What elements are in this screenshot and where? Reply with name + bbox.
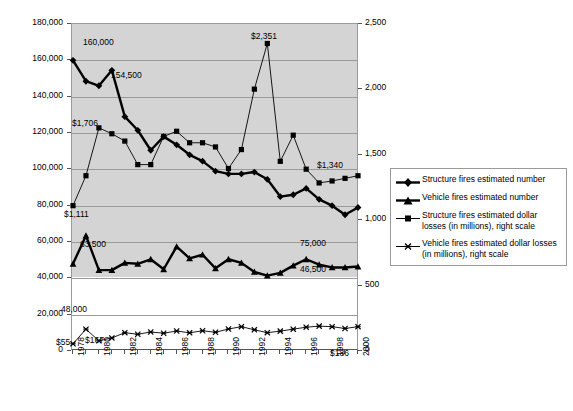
- series-square: [70, 41, 360, 208]
- x-axis-tickmark: [124, 350, 125, 354]
- right-axis-tick-label: 1,500: [365, 149, 405, 158]
- left-axis-tickmark: [67, 59, 71, 60]
- right-axis-tickmark: [358, 154, 362, 155]
- cross-thin-icon: [396, 238, 420, 249]
- x-axis-tickmark: [227, 350, 228, 354]
- x-axis-tickmark: [163, 350, 164, 354]
- x-axis-tickmark: [357, 350, 358, 354]
- legend-label: Structure fires estimated dollar losses …: [422, 210, 561, 231]
- left-axis-tick-label: 80,000: [3, 200, 63, 209]
- triangle-thick-icon: [396, 192, 420, 203]
- left-axis-tickmark: [67, 241, 71, 242]
- data-label-sloss-start: $1,111: [64, 209, 89, 219]
- x-axis-tickmark: [279, 350, 280, 354]
- data-label-sloss-end: $1,340: [317, 160, 343, 170]
- x-axis-tickmark: [215, 350, 216, 354]
- x-axis-tickmark: [150, 350, 151, 354]
- left-axis-tickmark: [67, 277, 71, 278]
- data-label-sloss-peak: $2,351: [251, 31, 277, 41]
- right-axis-tickmark: [358, 219, 362, 220]
- right-axis-tickmark: [358, 285, 362, 286]
- chart-root: 180,000160,000140,000120,000100,00080,00…: [0, 0, 573, 411]
- right-axis-tick-label: 0: [365, 345, 405, 354]
- x-axis-tickmark: [98, 350, 99, 354]
- data-label-structure-end: 75,000: [300, 238, 326, 248]
- legend-item-structure-losses: Structure fires estimated dollar losses …: [396, 210, 561, 231]
- x-axis-tickmark: [292, 350, 293, 354]
- left-axis-tick-label: 140,000: [3, 91, 63, 100]
- left-axis-tickmark: [67, 350, 71, 351]
- left-axis-tick-label: 60,000: [3, 236, 63, 245]
- left-axis-tick-label: 100,000: [3, 163, 63, 172]
- x-axis-tickmark: [137, 350, 138, 354]
- left-axis-tickmark: [67, 96, 71, 97]
- data-label-vloss-1979: $167: [85, 335, 104, 345]
- x-axis-tickmark: [266, 350, 267, 354]
- x-axis-tickmark: [202, 350, 203, 354]
- legend-item-structure-number: Structure fires estimated number: [396, 174, 561, 185]
- x-axis-tickmark: [253, 350, 254, 354]
- data-label-sloss-1980: $1,706: [72, 118, 98, 128]
- x-axis-tickmark: [189, 350, 190, 354]
- legend-item-vehicle-number: Vehicle fires estimated number: [396, 192, 561, 203]
- data-label-vehicle-peak: 63,500: [80, 239, 106, 249]
- data-label-structure-1981: 154,500: [111, 70, 142, 80]
- x-axis-tickmark: [240, 350, 241, 354]
- right-axis-tick-label: 500: [365, 280, 405, 289]
- data-label-vehicle-start: 48,000: [61, 304, 87, 314]
- left-axis-tickmark: [67, 23, 71, 24]
- data-label-vloss-end: $186: [330, 348, 349, 358]
- legend-label: Vehicle fires estimated dollar losses (i…: [422, 238, 561, 259]
- left-axis-tickmark: [67, 205, 71, 206]
- series-diamond: [70, 57, 362, 218]
- x-axis-tickmark: [85, 350, 86, 354]
- left-axis-tick-label: 180,000: [3, 18, 63, 27]
- data-label-vloss-start: $55: [56, 337, 70, 347]
- left-axis-tick-label: 40,000: [3, 272, 63, 281]
- diamond-thick-icon: [396, 174, 420, 185]
- left-axis-tick-label: 20,000: [3, 309, 63, 318]
- left-axis-tick-label: 0: [3, 345, 63, 354]
- x-axis-tickmark: [111, 350, 112, 354]
- data-label-structure-start: 160,000: [83, 37, 114, 47]
- x-axis-tickmark: [318, 350, 319, 354]
- x-axis-tickmark: [72, 350, 73, 354]
- right-axis-tickmark: [358, 23, 362, 24]
- left-axis-tickmark: [67, 132, 71, 133]
- left-axis-tickmark: [67, 168, 71, 169]
- right-axis-tick-label: 2,000: [365, 83, 405, 92]
- right-axis-tick-label: 2,500: [365, 18, 405, 27]
- x-axis-tick-label: 2000: [361, 337, 371, 356]
- legend-item-vehicle-losses: Vehicle fires estimated dollar losses (i…: [396, 238, 561, 259]
- left-axis-tick-label: 120,000: [3, 127, 63, 136]
- square-thin-icon: [396, 210, 420, 221]
- x-axis-tickmark: [176, 350, 177, 354]
- chart-legend: Structure fires estimated number Vehicle…: [390, 168, 567, 266]
- x-axis-tickmark: [305, 350, 306, 354]
- data-label-vehicle-end: 46,500: [300, 264, 326, 274]
- left-axis-tick-label: 160,000: [3, 54, 63, 63]
- right-axis-tickmark: [358, 88, 362, 89]
- legend-label: Structure fires estimated number: [422, 174, 545, 185]
- legend-label: Vehicle fires estimated number: [422, 192, 538, 203]
